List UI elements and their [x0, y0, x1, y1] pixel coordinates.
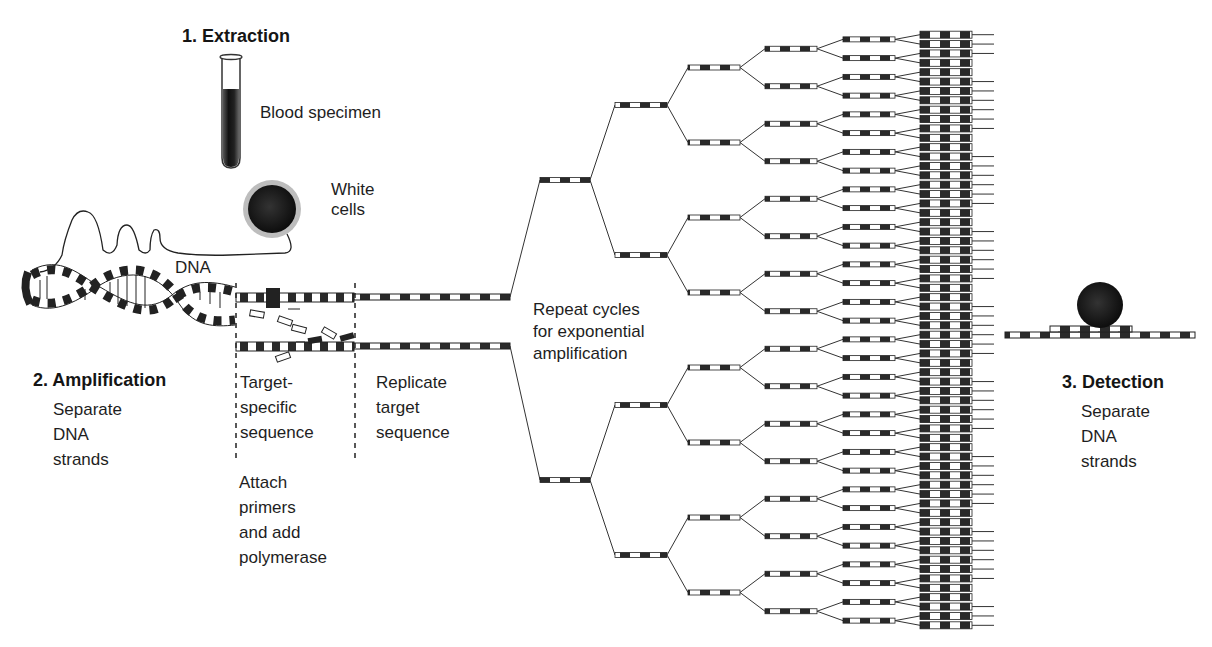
- detection-probe-icon: [1005, 282, 1195, 338]
- separated-strands: [236, 288, 510, 362]
- step-heading-extraction: 1. Extraction: [182, 26, 290, 47]
- label-repeat-cycles: Repeat cycles for exponential amplificat…: [533, 299, 645, 365]
- label-dna: DNA: [175, 258, 211, 278]
- detection-description: Separate DNA strands: [1081, 399, 1150, 474]
- label-white-cells: White cells: [331, 180, 374, 220]
- test-tube-icon: [220, 55, 242, 169]
- label-replicate-target: Replicate target sequence: [376, 370, 450, 445]
- step-heading-amplification: 2. Amplification: [33, 370, 166, 391]
- white-cell-icon: [243, 180, 301, 238]
- label-target-specific-sequence: Target- specific sequence: [240, 370, 314, 445]
- label-blood-specimen: Blood specimen: [260, 103, 381, 123]
- step-heading-detection: 3. Detection: [1062, 372, 1164, 393]
- amplification-description: Separate DNA strands: [53, 397, 122, 472]
- label-attach-primers: Attach primers and add polymerase: [239, 470, 327, 570]
